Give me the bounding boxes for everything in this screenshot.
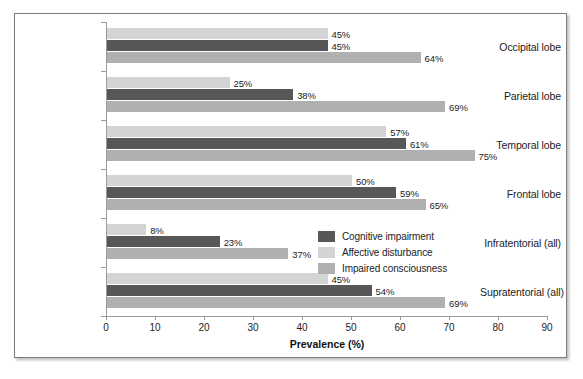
x-axis-tick <box>155 316 156 320</box>
bar-value-label: 8% <box>146 224 164 235</box>
bar-affective-disturbance[interactable] <box>107 126 386 137</box>
bar-track: 38% <box>107 89 566 100</box>
bar-cognitive-impairment[interactable] <box>107 187 396 198</box>
bar-affective-disturbance[interactable] <box>107 77 230 88</box>
bar-impaired-consciousness[interactable] <box>107 248 288 259</box>
bar-track: 25% <box>107 77 566 88</box>
bar-cognitive-impairment[interactable] <box>107 138 406 149</box>
bar-track: 59% <box>107 187 566 198</box>
x-axis-tick-label: 30 <box>247 322 258 333</box>
bar-value-label: 64% <box>421 52 444 63</box>
bar-cognitive-impairment[interactable] <box>107 89 293 100</box>
bar-track: 69% <box>107 297 566 308</box>
chart-category-row: Parietal lobe25%38%69% <box>15 71 566 120</box>
x-axis-title: Prevalence (%) <box>106 338 548 350</box>
bar-value-label: 61% <box>406 138 429 149</box>
x-axis-tick <box>449 316 450 320</box>
x-axis-tick-label: 50 <box>345 322 356 333</box>
bar-impaired-consciousness[interactable] <box>107 101 445 112</box>
bar-track: 50% <box>107 175 566 186</box>
legend-item[interactable]: Impaired consciousness <box>318 261 488 276</box>
bar-value-label: 50% <box>352 175 375 186</box>
x-axis-tick-label: 60 <box>394 322 405 333</box>
category-axis-tick <box>101 22 106 23</box>
x-axis-tick-label: 0 <box>103 322 109 333</box>
bar-track: 61% <box>107 138 566 149</box>
bar-value-label: 75% <box>475 150 498 161</box>
bar-cognitive-impairment[interactable] <box>107 40 328 51</box>
category-axis-tick <box>101 169 106 170</box>
x-axis-tick-label: 70 <box>443 322 454 333</box>
x-axis-tick-label: 90 <box>541 322 552 333</box>
legend-label: Impaired consciousness <box>342 263 447 274</box>
category-axis-tick <box>101 267 106 268</box>
bar-affective-disturbance[interactable] <box>107 175 352 186</box>
category-axis-tick <box>101 120 106 121</box>
legend-item[interactable]: Affective disturbance <box>318 245 488 260</box>
bar-value-label: 57% <box>386 126 409 137</box>
x-axis-tick-label: 40 <box>296 322 307 333</box>
bar-track: 45% <box>107 40 566 51</box>
x-axis-tick <box>106 316 107 320</box>
chart-category-row: Temporal lobe57%61%75% <box>15 120 566 169</box>
bar-group: 45%45%64% <box>107 22 566 71</box>
bar-group: 50%59%65% <box>107 169 566 218</box>
legend-label: Cognitive impairment <box>342 231 434 242</box>
legend-item[interactable]: Cognitive impairment <box>318 229 488 244</box>
bar-track: 64% <box>107 52 566 63</box>
bar-track: 69% <box>107 101 566 112</box>
bar-track: 75% <box>107 150 566 161</box>
legend-swatch-icon <box>318 247 335 258</box>
bar-impaired-consciousness[interactable] <box>107 297 445 308</box>
bar-value-label: 23% <box>220 236 243 247</box>
bar-value-label: 69% <box>445 297 468 308</box>
bar-value-label: 59% <box>396 187 419 198</box>
bar-value-label: 45% <box>328 40 351 51</box>
bar-group: 25%38%69% <box>107 71 566 120</box>
x-axis-tick <box>351 316 352 320</box>
bar-track: 57% <box>107 126 566 137</box>
legend-label: Affective disturbance <box>342 247 433 258</box>
bar-cognitive-impairment[interactable] <box>107 236 220 247</box>
x-axis-tick <box>547 316 548 320</box>
bar-affective-disturbance[interactable] <box>107 28 328 39</box>
x-axis-tick <box>498 316 499 320</box>
bar-value-label: 45% <box>328 28 351 39</box>
bar-track: 45% <box>107 28 566 39</box>
x-axis-tick <box>400 316 401 320</box>
bar-value-label: 69% <box>445 101 468 112</box>
bar-affective-disturbance[interactable] <box>107 273 328 284</box>
x-axis-tick <box>204 316 205 320</box>
x-axis-tick <box>302 316 303 320</box>
bar-track: 54% <box>107 285 566 296</box>
x-axis-tick-label: 80 <box>492 322 503 333</box>
bar-affective-disturbance[interactable] <box>107 224 146 235</box>
bar-group: 57%61%75% <box>107 120 566 169</box>
category-axis-tick <box>101 218 106 219</box>
chart-category-row: Frontal lobe50%59%65% <box>15 169 566 218</box>
bar-value-label: 65% <box>426 199 449 210</box>
chart-figure-frame: Occipital lobe45%45%64%Parietal lobe25%3… <box>14 13 567 358</box>
x-axis-tick-label: 10 <box>149 322 160 333</box>
bar-impaired-consciousness[interactable] <box>107 150 475 161</box>
bar-cognitive-impairment[interactable] <box>107 285 372 296</box>
x-axis-tick-label: 20 <box>198 322 209 333</box>
bar-track: 65% <box>107 199 566 210</box>
bar-value-label: 54% <box>372 285 395 296</box>
category-axis-tick <box>101 71 106 72</box>
legend-swatch-icon <box>318 231 335 242</box>
x-axis-tick <box>253 316 254 320</box>
bar-impaired-consciousness[interactable] <box>107 52 421 63</box>
bar-value-label: 25% <box>230 77 253 88</box>
bar-value-label: 37% <box>288 248 311 259</box>
bar-value-label: 38% <box>293 89 316 100</box>
chart-category-row: Occipital lobe45%45%64% <box>15 22 566 71</box>
bar-impaired-consciousness[interactable] <box>107 199 426 210</box>
chart-legend: Cognitive impairmentAffective disturbanc… <box>318 229 488 277</box>
legend-swatch-icon <box>318 263 335 274</box>
